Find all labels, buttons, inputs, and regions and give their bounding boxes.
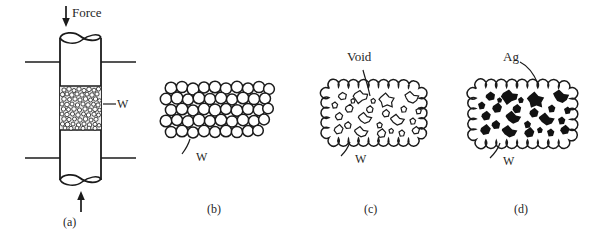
panel-c-caption: (c) [364, 203, 377, 215]
panel-b-graphic [155, 0, 315, 238]
panel-a-force-arrow-top [62, 6, 70, 27]
panel-c-void-label: Void [347, 50, 371, 63]
panel-a-powder-band [60, 86, 101, 130]
panel-c-graphic [315, 0, 485, 238]
figure-canvas: Force W (a) W (b) [0, 0, 592, 238]
panel-d-material-label: W [503, 155, 514, 167]
panel-c-material-label: W [355, 153, 366, 165]
panel-d-silver-label: Ag [503, 50, 519, 63]
panel-a-force-label: Force [72, 6, 102, 19]
panel-b-caption: (b) [207, 203, 221, 215]
panel-a-graphic [0, 0, 160, 238]
panel-a-caption: (a) [63, 216, 76, 228]
panel-c-sintered-skeleton [320, 79, 427, 146]
panel-b-tungsten-particles [160, 81, 274, 138]
panel-a-force-arrow-bottom [77, 191, 85, 212]
panel-b-w-leader [182, 139, 190, 154]
panel-d-caption: (d) [514, 203, 528, 215]
panel-d-infiltrated-composite [467, 79, 578, 149]
panel-a-material-label: W [117, 98, 128, 110]
panel-b-material-label: W [196, 151, 207, 163]
